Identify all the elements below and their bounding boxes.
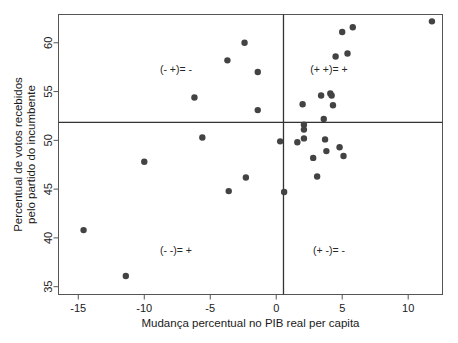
data-point xyxy=(328,92,334,98)
data-point xyxy=(301,135,307,141)
y-tick-label: 50 xyxy=(43,134,55,146)
x-tick-label: -5 xyxy=(205,302,215,314)
y-tick-label: 60 xyxy=(43,37,55,49)
y-axis-title-line1: Percentual de votos recebidos xyxy=(12,77,24,232)
y-tick-label: 55 xyxy=(43,85,55,97)
data-point xyxy=(336,144,342,150)
data-point xyxy=(224,57,230,63)
x-axis-title: Mudança percentual no PIB real per capit… xyxy=(142,317,361,329)
data-point xyxy=(340,153,346,159)
data-point xyxy=(294,139,300,145)
data-point xyxy=(243,174,249,180)
data-point xyxy=(277,138,283,144)
y-tick-label: 45 xyxy=(43,183,55,195)
data-point xyxy=(141,159,147,165)
data-point xyxy=(322,136,328,142)
data-point xyxy=(281,189,287,195)
data-point xyxy=(314,173,320,179)
x-tick-label: 5 xyxy=(339,302,345,314)
data-point xyxy=(323,148,329,154)
quadrant-label-top-right: (+ +)= + xyxy=(310,63,347,75)
y-tick-label: 35 xyxy=(43,281,55,293)
quadrant-label-bottom-right: (+ -)= - xyxy=(313,244,346,256)
x-tick-label: 0 xyxy=(273,302,279,314)
data-point xyxy=(344,50,350,56)
x-tick-label: -15 xyxy=(70,302,86,314)
data-point xyxy=(241,40,247,46)
y-tick-label: 40 xyxy=(43,232,55,244)
data-point xyxy=(310,155,316,161)
data-point xyxy=(332,53,338,59)
scatter-plot-figure: -15-10-50510 354045505560 (- +)= -(+ +)=… xyxy=(0,0,458,343)
quadrant-label-top-left: (- +)= - xyxy=(160,63,193,75)
data-point xyxy=(199,134,205,140)
data-point xyxy=(123,273,129,279)
data-point xyxy=(191,94,197,100)
data-point xyxy=(226,188,232,194)
data-point xyxy=(318,92,324,98)
data-point xyxy=(330,102,336,108)
x-tick-label: -10 xyxy=(136,302,152,314)
data-point xyxy=(301,126,307,132)
data-point xyxy=(321,116,327,122)
data-point xyxy=(255,107,261,113)
data-point xyxy=(429,18,435,24)
quadrant-label-bottom-left: (- -)= + xyxy=(160,244,192,256)
data-point xyxy=(255,69,261,75)
plot-background xyxy=(0,0,458,343)
data-point xyxy=(350,24,356,30)
x-tick-label: 10 xyxy=(402,302,414,314)
data-point xyxy=(339,29,345,35)
y-axis-title-line2: pelo partido do incumbente xyxy=(25,85,37,224)
data-point xyxy=(299,101,305,107)
plot-canvas: -15-10-50510 354045505560 (- +)= -(+ +)=… xyxy=(0,0,458,343)
data-point xyxy=(80,227,86,233)
